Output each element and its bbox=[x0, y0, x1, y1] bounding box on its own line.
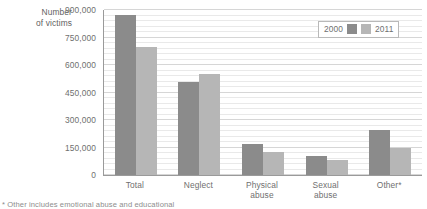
bar-2000 bbox=[178, 82, 199, 176]
bar-2011 bbox=[263, 152, 284, 175]
bar-group bbox=[178, 10, 220, 175]
legend-label-2000: 2000 bbox=[324, 25, 343, 34]
bar-2000 bbox=[115, 15, 136, 175]
y-tick-label: 900,000 bbox=[36, 6, 96, 14]
bar-2011 bbox=[390, 148, 411, 175]
bar-2011 bbox=[136, 47, 157, 175]
bar-chart-figure: Number of victims 0150,000300,000450,000… bbox=[0, 0, 427, 209]
y-tick-label: 300,000 bbox=[36, 116, 96, 124]
legend-swatch-2000 bbox=[347, 24, 357, 34]
legend-swatch-2011 bbox=[361, 24, 371, 34]
bar-2011 bbox=[199, 74, 220, 175]
y-tick-label: 0 bbox=[36, 171, 96, 179]
bar-2000 bbox=[306, 156, 327, 175]
chart-footnote: * Other includes emotional abuse and edu… bbox=[2, 200, 174, 209]
x-tick-label: Other* bbox=[349, 180, 427, 190]
y-tick-label: 150,000 bbox=[36, 144, 96, 152]
y-tick-label: 600,000 bbox=[36, 61, 96, 69]
bar-group bbox=[115, 10, 157, 175]
legend-label-2011: 2011 bbox=[375, 25, 393, 34]
y-axis-title-line-2: of victims bbox=[0, 18, 72, 29]
chart-legend: 2000 2011 bbox=[318, 21, 399, 38]
y-tick-label: 750,000 bbox=[36, 34, 96, 42]
bar-group bbox=[242, 10, 284, 175]
bar-2011 bbox=[327, 160, 348, 175]
bar-2000 bbox=[369, 130, 390, 175]
bar-2000 bbox=[242, 144, 263, 175]
y-tick-label: 450,000 bbox=[36, 89, 96, 97]
